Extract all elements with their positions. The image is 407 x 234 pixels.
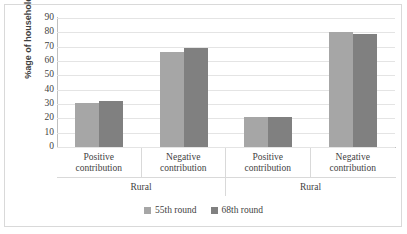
y-axis-tick-label: 50 — [24, 70, 54, 79]
bar-68th-round-2 — [268, 117, 292, 147]
bar-55th-round-0 — [75, 103, 99, 147]
x-axis-category-label: Positivecontribution — [226, 148, 311, 178]
x-axis-category-labels: PositivecontributionNegativecontribution… — [57, 148, 396, 178]
y-axis-tick-label: 20 — [24, 113, 54, 122]
legend-swatch-icon — [211, 207, 218, 214]
y-axis-tick-label: 70 — [24, 42, 54, 51]
bar-55th-round-1 — [160, 52, 184, 147]
y-axis-tick-label: 10 — [24, 128, 54, 137]
bar-68th-round-1 — [184, 48, 208, 147]
y-axis-tick-label: 80 — [24, 27, 54, 36]
bar-55th-round-3 — [329, 32, 353, 147]
gridline — [57, 18, 395, 19]
x-axis-group-label: Rural — [226, 178, 395, 196]
bar-55th-round-2 — [244, 117, 268, 147]
bar-chart: %age of households 9080706050403020100 P… — [0, 0, 407, 234]
y-axis-tick-label: 0 — [24, 142, 54, 151]
x-axis-category-label: Positivecontribution — [57, 148, 142, 178]
bar-68th-round-3 — [353, 34, 377, 147]
plot-area — [57, 18, 395, 147]
x-axis-group-label: Rural — [57, 178, 226, 196]
legend-label: 68th round — [222, 205, 263, 215]
legend-item[interactable]: 68th round — [211, 205, 263, 215]
y-axis-tick-label: 60 — [24, 56, 54, 65]
x-axis-group-labels: RuralRural — [57, 178, 396, 196]
y-axis-tick-label: 90 — [24, 13, 54, 22]
chart-legend: 55th round68th round — [0, 205, 407, 215]
y-axis-tick-label: 30 — [24, 99, 54, 108]
x-axis-category-label: Negativecontribution — [311, 148, 396, 178]
legend-label: 55th round — [155, 205, 196, 215]
legend-item[interactable]: 55th round — [144, 205, 196, 215]
bar-68th-round-0 — [99, 101, 123, 147]
x-axis-category-label: Negativecontribution — [142, 148, 227, 178]
legend-swatch-icon — [144, 207, 151, 214]
y-axis-tick-label: 40 — [24, 85, 54, 94]
